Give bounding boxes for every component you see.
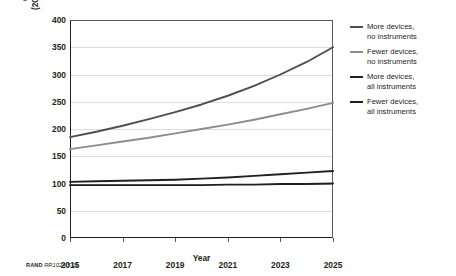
y-tick-label: 200: [40, 125, 66, 133]
legend-item[interactable]: Fewer devices,no instruments: [350, 47, 454, 67]
legend-label-line2: all instruments: [367, 107, 416, 116]
legend-label: Fewer devices,all instruments: [367, 97, 418, 117]
x-tick-mark: [280, 238, 281, 242]
y-tick-label: 100: [40, 179, 66, 187]
y-axis-title-line2: (2015 losses to cyberattack = 100%): [31, 0, 42, 10]
y-tick-label: 250: [40, 98, 66, 106]
legend-swatch-icon: [350, 76, 363, 78]
y-tick-label: 150: [40, 152, 66, 160]
legend-swatch-icon: [350, 51, 363, 53]
x-tick-mark: [333, 238, 334, 242]
series-line: [70, 103, 333, 149]
legend-item[interactable]: More devices,no instruments: [350, 22, 454, 42]
y-tick-label: 400: [40, 16, 66, 24]
y-tick-label: 50: [40, 207, 66, 215]
x-tick-mark: [123, 238, 124, 242]
chart-figure: Costs over time, by percentage (2015 los…: [0, 0, 456, 276]
legend-label-line1: Fewer devices,: [367, 97, 418, 106]
legend-label-line1: More devices,: [367, 22, 414, 31]
legend-label-line1: Fewer devices,: [367, 47, 418, 56]
legend-label: More devices,no instruments: [367, 22, 417, 42]
legend-swatch-icon: [350, 26, 363, 28]
legend-label-line1: More devices,: [367, 72, 414, 81]
legend-label-line2: no instruments: [367, 57, 417, 66]
credit-prefix: RAND: [26, 262, 43, 268]
x-tick-mark: [175, 238, 176, 242]
y-tick-label: 350: [40, 43, 66, 51]
legend-item[interactable]: More devices,all instruments: [350, 72, 454, 92]
y-axis-title-line1: Costs over time, by percentage: [21, 0, 32, 1]
x-tick-mark: [70, 238, 71, 242]
credit-id: RR1024-5.11: [44, 262, 78, 268]
legend-label-line2: all instruments: [367, 82, 416, 91]
legend-label: Fewer devices,no instruments: [367, 47, 418, 67]
plot-area: 201520172019202120232025: [70, 20, 333, 238]
figure-credit: RAND RR1024-5.11: [26, 262, 78, 268]
legend-label: More devices,all instruments: [367, 72, 416, 92]
series-line: [70, 47, 333, 137]
legend-item[interactable]: Fewer devices,all instruments: [350, 97, 454, 117]
x-tick-mark: [228, 238, 229, 242]
y-axis-tick-labels: 050100150200250300350400: [38, 20, 66, 238]
series-line: [70, 171, 333, 182]
chart-legend: More devices,no instrumentsFewer devices…: [350, 22, 454, 121]
y-tick-label: 0: [40, 234, 66, 242]
legend-swatch-icon: [350, 101, 363, 103]
x-axis-title: Year: [70, 253, 333, 263]
series-line: [70, 184, 333, 186]
series-lines: [70, 20, 333, 238]
legend-label-line2: no instruments: [367, 32, 417, 41]
y-tick-label: 300: [40, 70, 66, 78]
